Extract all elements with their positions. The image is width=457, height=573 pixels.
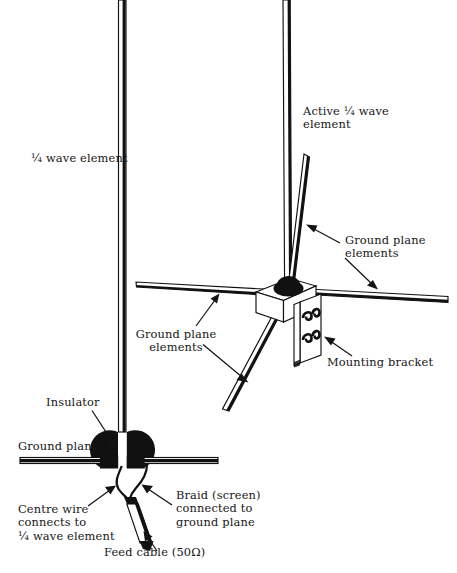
label-ground-plane: Ground plane xyxy=(18,440,99,453)
label-ground-plane-elements-right: Ground plane elements xyxy=(345,234,426,261)
braid-conductor-wire xyxy=(130,465,147,499)
leader-mounting-bracket xyxy=(324,337,352,357)
antenna-diagram: ¼ wave element Active ¼ wave element Gro… xyxy=(0,0,457,573)
label-ground-plane-elements-left: Ground plane elements xyxy=(133,328,219,355)
label-mounting-bracket: Mounting bracket xyxy=(327,356,433,369)
ground-plane-bar xyxy=(20,458,218,464)
label-quarter-wave-element: ¼ wave element xyxy=(31,152,128,165)
feed-cable xyxy=(124,497,154,551)
label-centre-wire: Centre wire connects to ¼ wave element xyxy=(18,503,115,543)
label-feed-cable: Feed cable (50Ω) xyxy=(104,546,205,559)
vertical-quarter-wave-element xyxy=(119,0,127,432)
label-insulator: Insulator xyxy=(46,396,100,409)
leader-braid xyxy=(142,485,173,506)
hub-insulator-dome xyxy=(274,276,304,297)
centre-conductor-wire xyxy=(117,466,129,500)
label-active-quarter-wave-element: Active ¼ wave element xyxy=(303,105,389,132)
label-braid-screen: Braid (screen) connected to ground plane xyxy=(176,489,261,529)
active-quarter-wave-element xyxy=(283,0,292,287)
